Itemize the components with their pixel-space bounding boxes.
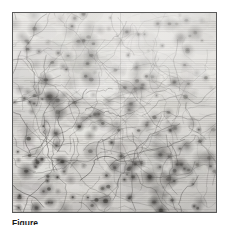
figure-root: Figure [0, 0, 230, 225]
micrograph-image [13, 13, 216, 212]
figure-caption: Figure [12, 216, 222, 225]
micrograph-panel [12, 12, 217, 213]
figure-caption-label: Figure [12, 218, 38, 225]
